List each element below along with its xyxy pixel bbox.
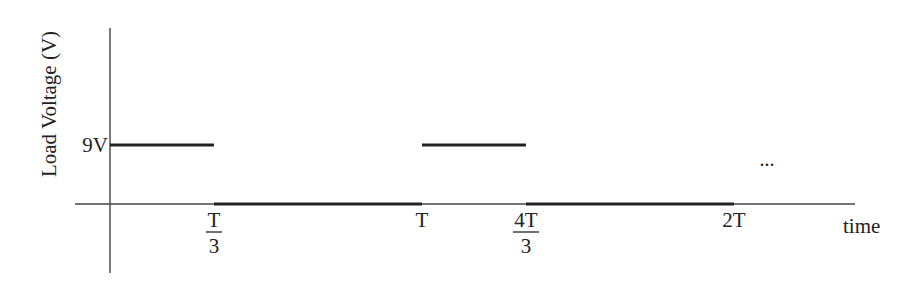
x-tick-1: T [416,208,429,232]
x-tick-numerator: 4T [514,208,538,232]
y-axis-label: Load Voltage (V) [37,31,61,177]
x-tick-0: T3 [206,208,222,258]
x-tick-numerator: T [208,208,221,232]
x-tick-denominator: 3 [209,234,220,258]
x-tick-label: T [416,208,429,232]
x-tick-labels: T3T4T32T [206,208,746,258]
x-tick-2: 4T3 [513,208,539,258]
load-voltage-chart: Load Voltage (V) time 9V T3T4T32T ... [0,0,924,281]
continuation-ellipsis: ... [760,148,775,170]
y-tick-label-9v: 9V [82,133,108,157]
x-tick-denominator: 3 [521,234,532,258]
x-axis-label: time [843,214,880,238]
x-tick-label: 2T [722,208,746,232]
x-tick-3: 2T [722,208,746,232]
signal-segments [110,145,734,204]
